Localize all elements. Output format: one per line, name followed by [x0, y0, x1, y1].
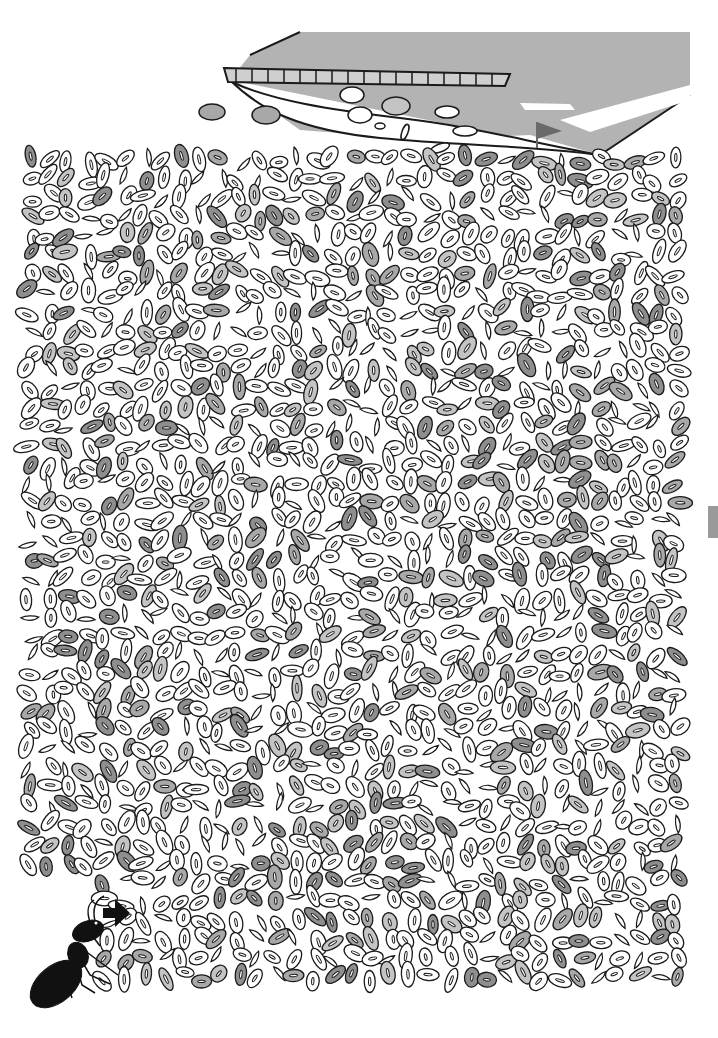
cereal-box-icon — [199, 32, 690, 155]
maze-cereal-field — [13, 143, 694, 995]
maze-illustration — [0, 0, 718, 1038]
page-edge-tab — [708, 506, 718, 538]
